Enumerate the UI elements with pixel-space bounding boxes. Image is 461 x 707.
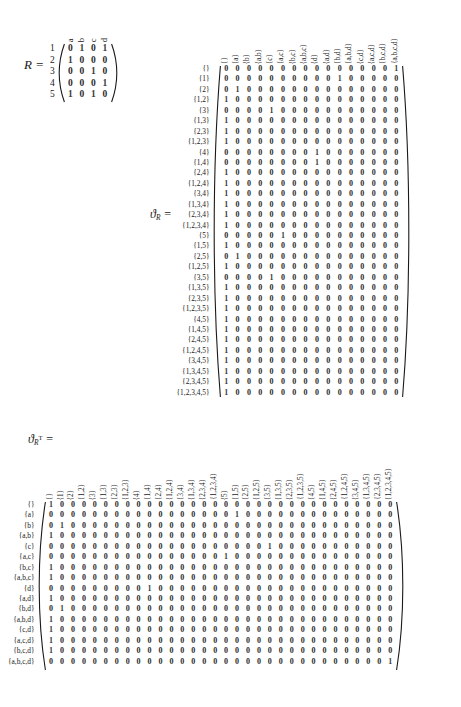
theta-r-cell: 0 xyxy=(323,262,334,272)
theta-rt-cell: 0 xyxy=(275,657,286,667)
theta-r-cell: 0 xyxy=(232,200,243,210)
theta-r-cell: 0 xyxy=(357,367,368,377)
theta-r-cell: 0 xyxy=(289,116,300,126)
theta-r-cell: 0 xyxy=(311,335,322,345)
theta-r-cell: 0 xyxy=(221,74,232,84)
theta-r-cell: 0 xyxy=(289,210,300,220)
theta-rt-cell: 0 xyxy=(177,563,188,573)
theta-r-cell: 0 xyxy=(266,179,277,189)
theta-r-cell: 0 xyxy=(334,168,345,178)
theta-rt-cell: 0 xyxy=(275,625,286,635)
theta-r-cell: 0 xyxy=(345,210,356,220)
theta-rt-cell: 0 xyxy=(221,625,232,635)
theta-rt-cell: 0 xyxy=(67,594,78,604)
theta-r-row-label: {1,4,5} xyxy=(188,325,213,335)
theta-rt-cell: 0 xyxy=(199,521,210,531)
theta-r-cell: 0 xyxy=(345,231,356,241)
theta-rt-cell: 0 xyxy=(199,542,210,552)
theta-rt-cell: 1 xyxy=(385,657,396,667)
r-matrix-cell: 0 xyxy=(76,89,88,101)
theta-rt-cell: 0 xyxy=(177,584,188,594)
theta-rt-cell: 0 xyxy=(275,542,286,552)
theta-r-cell: 0 xyxy=(323,231,334,241)
theta-r-cell: 0 xyxy=(243,74,254,84)
theta-rt-cell: 0 xyxy=(221,584,232,594)
theta-rt-cell: 0 xyxy=(210,636,221,646)
theta-r-cell: 0 xyxy=(277,388,288,398)
theta-r-cell: 0 xyxy=(323,189,334,199)
theta-rt-cell: 0 xyxy=(363,584,374,594)
theta-r-cell: 0 xyxy=(368,262,379,272)
theta-r-cell: 0 xyxy=(300,74,311,84)
theta-rt-cell: 0 xyxy=(57,531,68,541)
theta-r-cell: 0 xyxy=(357,294,368,304)
theta-rt-cell: 0 xyxy=(242,531,253,541)
theta-r-row: 1000000000000000 xyxy=(221,325,403,335)
theta-rt-cell: 0 xyxy=(122,615,133,625)
theta-r-cell: 0 xyxy=(368,356,379,366)
theta-r-row: 1000000000000000 xyxy=(221,116,403,126)
theta-r-cell: 0 xyxy=(334,64,345,74)
theta-rt-cell: 0 xyxy=(144,594,155,604)
theta-rt-column-label: {1,4,5} xyxy=(319,479,330,500)
theta-r-cell: 0 xyxy=(311,127,322,137)
theta-rt-row-label: {a,b,c} xyxy=(14,573,38,583)
theta-r-cell: 1 xyxy=(221,377,232,387)
theta-r-cell: 0 xyxy=(277,179,288,189)
theta-rt-cell: 0 xyxy=(100,604,111,614)
theta-rt-cell: 0 xyxy=(144,636,155,646)
theta-r-cell: 0 xyxy=(300,221,311,231)
theta-r-cell: 1 xyxy=(221,367,232,377)
theta-rt-cell: 0 xyxy=(264,521,275,531)
theta-rt-cell: 0 xyxy=(308,542,319,552)
theta-rt-cell: 0 xyxy=(67,563,78,573)
theta-rt-cell: 0 xyxy=(89,573,100,583)
theta-r-cell: 0 xyxy=(277,356,288,366)
theta-rt-cell: 0 xyxy=(319,552,330,562)
theta-r-cell: 0 xyxy=(391,315,402,325)
theta-rt-column-label: {1} xyxy=(57,490,68,501)
theta-rt-cell: 0 xyxy=(286,573,297,583)
theta-rt-cell: 0 xyxy=(111,573,122,583)
theta-r-row: 1000000000000000 xyxy=(221,335,403,345)
theta-rt-block: {}{1}{2}{1,2}{3}{1,3}{2,3}{1,2,3}{4}{1,4… xyxy=(8,462,404,672)
theta-rt-cell: 0 xyxy=(330,510,341,520)
theta-r-row-label: {1,4} xyxy=(193,158,212,168)
theta-rt-cell: 0 xyxy=(286,563,297,573)
theta-r-cell: 0 xyxy=(323,315,334,325)
theta-rt-cell: 0 xyxy=(188,584,199,594)
theta-rt-cell: 0 xyxy=(242,584,253,594)
theta-r-cell: 1 xyxy=(221,388,232,398)
theta-r-row-label: {1,3} xyxy=(193,116,212,126)
theta-rt-cells: 1000000000000000000000000000000000000000… xyxy=(46,500,396,672)
theta-rt-cell: 0 xyxy=(308,615,319,625)
theta-rt-cell: 0 xyxy=(297,542,308,552)
theta-r-cell: 0 xyxy=(255,367,266,377)
theta-r-column-label: {a} xyxy=(232,54,243,64)
r-matrix-column-label: d xyxy=(99,38,111,42)
theta-r-cell: 0 xyxy=(311,304,322,314)
theta-rt-cell: 1 xyxy=(46,531,57,541)
theta-r-cell: 0 xyxy=(289,388,300,398)
theta-rt-cell: 0 xyxy=(286,521,297,531)
theta-rt-row-label: {a,d} xyxy=(19,594,38,604)
theta-r-cell: 0 xyxy=(345,64,356,74)
theta-rt-cell: 0 xyxy=(352,615,363,625)
theta-r-cell: 0 xyxy=(357,241,368,251)
theta-rt-cell: 0 xyxy=(155,542,166,552)
theta-r-cell: 0 xyxy=(311,200,322,210)
theta-r-cell: 0 xyxy=(277,273,288,283)
theta-rt-cell: 0 xyxy=(363,563,374,573)
right-paren xyxy=(402,64,410,399)
theta-r-cell: 0 xyxy=(300,346,311,356)
theta-r-cell: 0 xyxy=(379,356,390,366)
theta-rt-cell: 0 xyxy=(308,573,319,583)
theta-rt-row: 10000000000000000000000000000000 xyxy=(46,636,396,646)
theta-r-cell: 0 xyxy=(334,158,345,168)
r-matrix-column-label: a xyxy=(65,38,77,42)
theta-r-cells: 0000000000000001000000000010000001000000… xyxy=(221,64,403,399)
theta-r-cell: 0 xyxy=(379,388,390,398)
theta-r-cell: 0 xyxy=(357,273,368,283)
theta-r-cell: 0 xyxy=(243,148,254,158)
theta-rt-cell: 0 xyxy=(100,573,111,583)
